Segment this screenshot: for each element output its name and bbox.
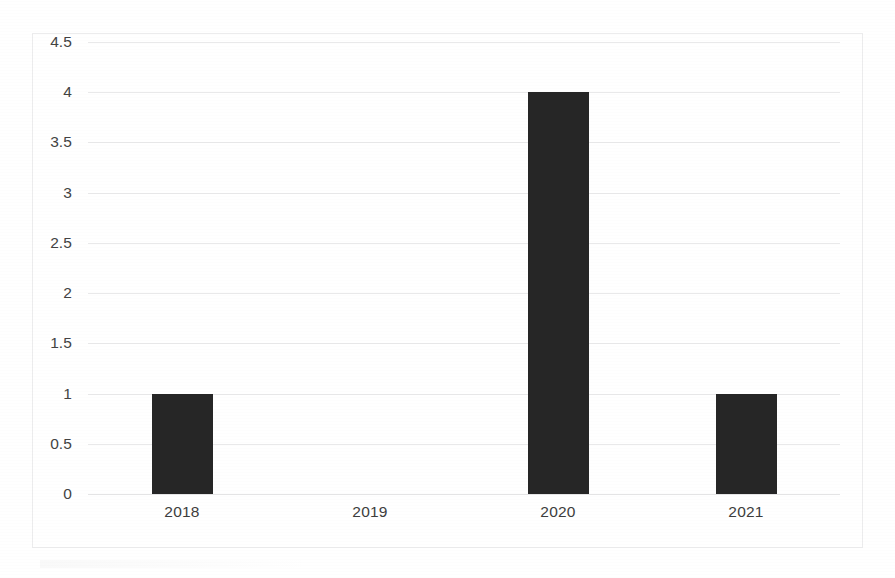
y-axis-tick-label: 1 [12, 386, 72, 402]
gridline [88, 343, 840, 344]
gridline [88, 42, 840, 43]
gridline [88, 142, 840, 143]
gridline [88, 243, 840, 244]
x-axis-category-label: 2021 [686, 503, 806, 522]
bar-2018 [152, 394, 213, 494]
y-axis-tick-label: 4.5 [12, 34, 72, 50]
x-axis-category-label: 2019 [310, 503, 430, 522]
x-axis-category-label: 2018 [122, 503, 242, 522]
gridline [88, 494, 840, 495]
y-axis-tick-label: 2.5 [12, 235, 72, 251]
gridline [88, 92, 840, 93]
y-axis-tick-label: 4 [12, 84, 72, 100]
y-axis-tick-label: 2 [12, 285, 72, 301]
bar-2021 [716, 394, 777, 494]
y-axis-tick-label: 0 [12, 486, 72, 502]
x-axis: 2018201920202021 [88, 503, 840, 531]
gridline [88, 293, 840, 294]
x-axis-category-label: 2020 [498, 503, 618, 522]
y-axis: 4.543.532.521.510.50 [12, 42, 72, 494]
bar-2020 [528, 92, 589, 494]
page-edge-smudge [40, 560, 360, 568]
y-axis-tick-label: 3 [12, 185, 72, 201]
y-axis-tick-label: 1.5 [12, 336, 72, 352]
y-axis-tick-label: 0.5 [12, 436, 72, 452]
plot-area [88, 42, 840, 494]
gridline [88, 193, 840, 194]
y-axis-tick-label: 3.5 [12, 135, 72, 151]
bar-chart: 4.543.532.521.510.50 2018201920202021 [0, 0, 895, 578]
